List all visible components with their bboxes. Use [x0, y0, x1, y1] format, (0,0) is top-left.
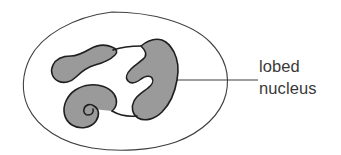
cell-membrane-outline — [23, 12, 227, 150]
nucleus-label: lobed nucleus — [259, 56, 339, 100]
figure-root: lobed nucleus — [0, 0, 341, 155]
nucleus-label-line-1: lobed — [259, 56, 339, 78]
nucleus-label-line-2: nucleus — [259, 78, 339, 100]
